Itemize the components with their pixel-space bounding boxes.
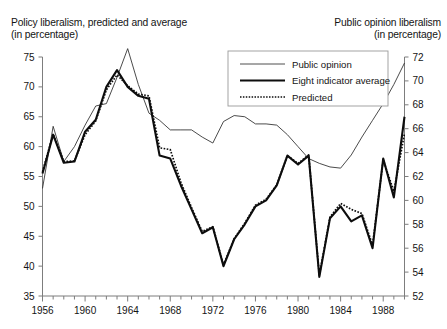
left-axis-ticks [39,57,43,296]
left-tick-label: 70 [23,81,35,92]
x-axis-ticks [43,296,405,302]
left-tick-label: 45 [23,231,35,242]
right-tick-label: 60 [413,195,425,206]
right-axis-tick-labels: 5254565860626466687072 [413,52,425,302]
legend-item-label: Predicted [292,92,333,103]
right-axis-title: Public opinion liberalism (in percentage… [334,17,441,41]
legend-item-label: Public opinion [292,59,352,70]
left-tick-label: 75 [23,52,35,63]
right-tick-label: 62 [413,171,425,182]
x-tick-label: 1964 [117,305,140,316]
x-tick-label: 1968 [159,305,182,316]
right-tick-label: 70 [413,75,425,86]
legend: Public opinionEight indicator averagePre… [228,51,390,106]
line-chart: 354045505560657075 525456586062646668707… [0,0,447,329]
left-tick-label: 65 [23,111,35,122]
right-tick-label: 56 [413,243,425,254]
x-axis-tick-labels: 195619601964196819721976198019841988 [31,305,394,316]
x-tick-label: 1976 [244,305,267,316]
left-axis-tick-labels: 354045505560657075 [23,52,35,302]
legend-item-label: Eight indicator average [292,75,390,86]
left-axis: 354045505560657075 [23,52,42,302]
right-tick-label: 52 [413,291,425,302]
right-tick-label: 66 [413,123,425,134]
right-tick-label: 58 [413,219,425,230]
x-tick-label: 1980 [287,305,310,316]
right-tick-label: 64 [413,147,425,158]
x-axis: 195619601964196819721976198019841988 [31,296,404,316]
x-tick-label: 1956 [31,305,54,316]
left-tick-label: 60 [23,141,35,152]
right-tick-label: 68 [413,99,425,110]
left-tick-label: 40 [23,261,35,272]
left-tick-label: 50 [23,201,35,212]
left-tick-label: 55 [23,171,35,182]
x-tick-label: 1988 [372,305,395,316]
right-tick-label: 54 [413,267,425,278]
x-tick-label: 1972 [202,305,225,316]
x-tick-label: 1984 [329,305,352,316]
figure-container: Policy liberalism, predicted and average… [0,0,447,329]
x-tick-label: 1960 [74,305,97,316]
right-tick-label: 72 [413,52,425,63]
left-tick-label: 35 [23,291,35,302]
left-axis-title: Policy liberalism, predicted and average… [11,17,187,41]
right-axis: 5254565860626466687072 [405,52,425,302]
right-axis-ticks [405,57,409,296]
